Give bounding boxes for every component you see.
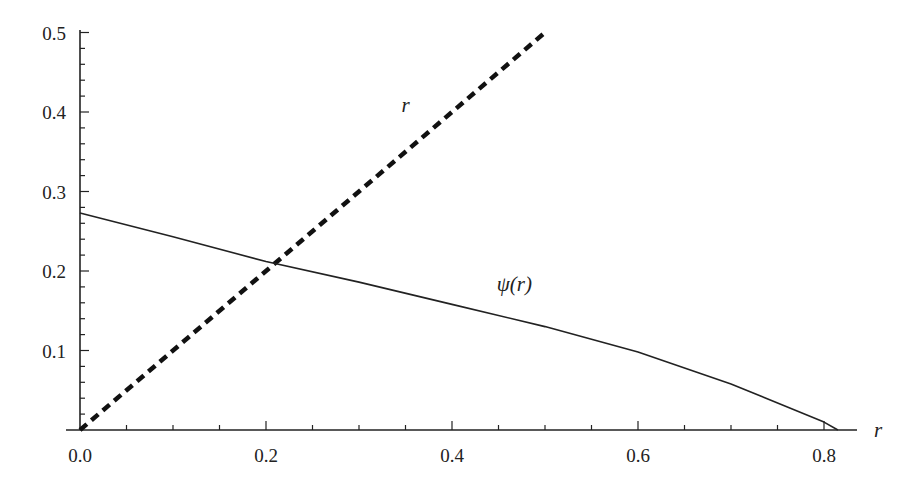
y-tick-label: 0.3 — [42, 182, 66, 203]
series-psi-curve — [80, 213, 838, 430]
label-psi-r: ψ(r) — [497, 272, 532, 296]
x-tick-label: 0.4 — [440, 445, 464, 466]
y-tick-label: 0.5 — [42, 23, 66, 44]
chart-plot-area: 0.00.20.40.60.80.10.20.30.40.5r rψ(r) — [0, 0, 912, 482]
x-tick-label: 0.2 — [254, 445, 278, 466]
x-tick-label: 0.0 — [68, 445, 92, 466]
axes: 0.00.20.40.60.80.10.20.30.40.5r — [42, 23, 883, 467]
series-group — [80, 33, 838, 431]
x-tick-label: 0.8 — [812, 445, 836, 466]
x-tick-label: 0.6 — [626, 445, 650, 466]
y-tick-label: 0.2 — [42, 261, 66, 282]
y-tick-label: 0.1 — [42, 341, 66, 362]
y-tick-label: 0.4 — [42, 102, 66, 123]
labels-group: rψ(r) — [401, 93, 532, 296]
x-axis-label: r — [874, 418, 883, 442]
label-r: r — [401, 93, 410, 117]
